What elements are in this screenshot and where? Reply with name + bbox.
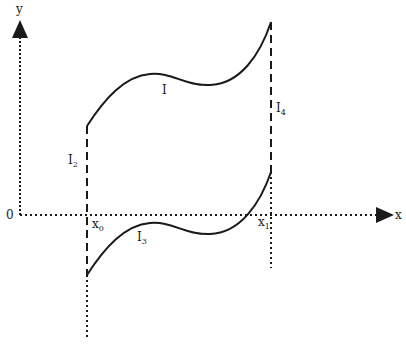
upper-curve: [87, 22, 271, 126]
lower-curve-label: I3: [137, 230, 147, 246]
x-axis-label: x: [395, 208, 402, 222]
lower-curve: [87, 172, 271, 275]
upper-curve-label: I: [162, 83, 167, 97]
origin-label: 0: [6, 208, 14, 222]
x0-label: x0: [92, 217, 104, 233]
right-segment-label: I4: [276, 101, 286, 117]
contour-diagram: y x 0 x0 x1 I I3 I2 I4: [0, 0, 406, 350]
y-axis-label: y: [15, 2, 23, 16]
left-segment-label: I2: [68, 153, 78, 169]
x1-label: x1: [258, 215, 270, 231]
